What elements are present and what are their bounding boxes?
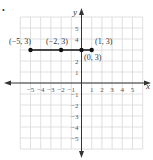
y-tick-label: −1 xyxy=(71,91,79,99)
y-tick-label: −2 xyxy=(71,102,79,110)
point-label-0-3: (0, 3) xyxy=(84,53,102,62)
coordinate-plane-chart: −5−4−3−2−112345−5−4−3−2−11245 • y x (−5,… xyxy=(0,0,153,160)
data-point xyxy=(28,48,32,52)
data-series xyxy=(28,48,94,52)
y-axis-arrow-down-icon xyxy=(79,151,84,158)
x-tick-label: −5 xyxy=(27,86,35,94)
x-axis-label: x xyxy=(145,81,150,91)
data-point xyxy=(90,48,94,52)
x-tick-label: 3 xyxy=(110,86,114,94)
x-tick-label: −4 xyxy=(37,86,45,94)
y-axis-label: y xyxy=(72,7,77,17)
data-point xyxy=(79,48,83,52)
x-tick-label: −2 xyxy=(57,86,65,94)
y-tick-label: 1 xyxy=(75,69,79,77)
data-point xyxy=(59,48,63,52)
y-tick-label: 5 xyxy=(75,25,79,33)
bullet-marker: • xyxy=(2,6,5,15)
x-axis-arrow-left-icon xyxy=(4,81,11,86)
y-tick-label: 2 xyxy=(75,58,79,66)
x-tick-label: 4 xyxy=(121,86,125,94)
point-label-1-3: (1, 3) xyxy=(95,37,113,46)
y-tick-label: −3 xyxy=(71,113,79,121)
y-tick-label: 4 xyxy=(75,36,79,44)
point-label-neg2-3: (−2, 3) xyxy=(46,37,68,46)
labels: • y x (−5, 3) (−2, 3) (0, 3) (1, 3) xyxy=(2,6,150,91)
y-tick-label: −4 xyxy=(71,124,79,132)
point-label-neg5-3: (−5, 3) xyxy=(9,37,31,46)
y-tick-label: −5 xyxy=(71,135,79,143)
x-tick-label: 2 xyxy=(100,86,104,94)
x-tick-label: 1 xyxy=(90,86,94,94)
x-tick-label: −3 xyxy=(47,86,55,94)
x-tick-label: 5 xyxy=(131,86,135,94)
y-axis-arrow-up-icon xyxy=(79,8,84,15)
